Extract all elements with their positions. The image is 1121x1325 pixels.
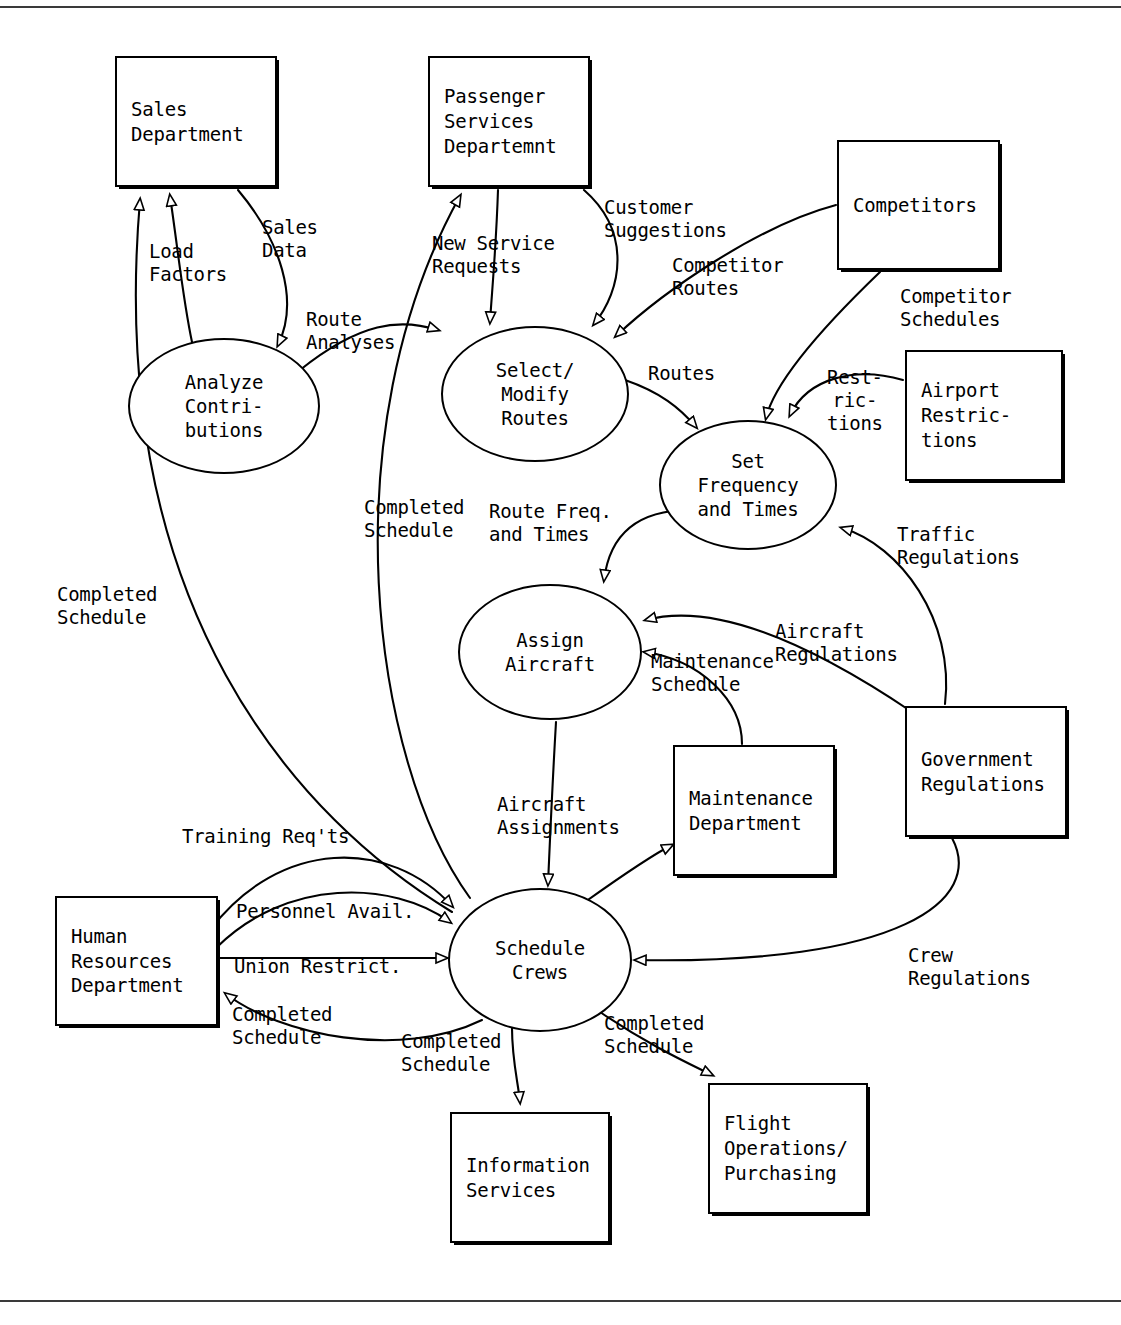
flow-label-crew-regulations: Crew Regulations	[908, 944, 1031, 990]
flow-completed-schedule-information	[512, 1028, 520, 1102]
dfd-canvas: Analyze Contri- butions Select/ Modify R…	[0, 0, 1121, 1325]
entity-information-services-label: Information Services	[452, 1153, 590, 1202]
process-select-modify-routes-label: Select/ Modify Routes	[496, 358, 575, 431]
flow-label-completed-schedule-information: Completed Schedule	[401, 1030, 501, 1076]
entity-competitors-label: Competitors	[839, 193, 977, 218]
page-rule-top	[0, 6, 1121, 8]
flow-label-load-factors: Load Factors	[149, 240, 227, 286]
process-assign-aircraft[interactable]: Assign Aircraft	[458, 584, 642, 720]
entity-sales-department[interactable]: Sales Department	[115, 56, 277, 187]
entity-competitors[interactable]: Competitors	[837, 140, 1000, 270]
flow-sales-data	[238, 190, 287, 345]
flow-label-customer-suggestions: Customer Suggestions	[604, 196, 727, 242]
entity-airport-restrictions[interactable]: Airport Restric- tions	[905, 350, 1063, 481]
entity-sales-department-label: Sales Department	[117, 97, 243, 146]
flow-routes	[625, 380, 696, 427]
flow-label-traffic-regulations: Traffic Regulations	[897, 523, 1020, 569]
entity-flight-operations-purchasing[interactable]: Flight Operations/ Purchasing	[708, 1083, 868, 1214]
process-select-modify-routes[interactable]: Select/ Modify Routes	[441, 326, 629, 462]
flow-label-training-reqts: Training Req'ts	[182, 825, 349, 848]
entity-government-regulations[interactable]: Government Regulations	[905, 706, 1067, 837]
flow-label-route-analyses: Route Analyses	[306, 308, 395, 354]
entity-human-resources-department[interactable]: Human Resources Department	[55, 896, 218, 1026]
flow-completed-schedule-maintenance	[585, 845, 672, 902]
entity-airport-restrictions-label: Airport Restric- tions	[907, 378, 1011, 452]
entity-information-services[interactable]: Information Services	[450, 1112, 610, 1243]
entity-maintenance-department-label: Maintenance Department	[675, 786, 813, 835]
flow-label-completed-schedule-hr: Completed Schedule	[232, 1003, 332, 1049]
flow-label-maintenance-schedule: Maintenance Schedule	[651, 650, 774, 696]
entity-government-regulations-label: Government Regulations	[907, 747, 1045, 796]
flow-label-new-service-requests: New Service Requests	[432, 232, 555, 278]
entity-passenger-services-department-label: Passenger Services Departemnt	[430, 84, 556, 158]
flow-label-restrictions: Rest- ric- tions	[827, 366, 883, 436]
entity-flight-operations-purchasing-label: Flight Operations/ Purchasing	[710, 1111, 848, 1185]
flow-label-aircraft-regulations: Aircraft Regulations	[775, 620, 898, 666]
entity-human-resources-department-label: Human Resources Department	[57, 924, 183, 998]
process-analyze-contributions-label: Analyze Contri- butions	[185, 370, 264, 443]
flow-label-competitor-routes: Competitor Routes	[672, 254, 783, 300]
flow-label-route-freq-and-times: Route Freq. and Times	[489, 500, 612, 546]
page-rule-bottom	[0, 1300, 1121, 1302]
flow-label-completed-schedule-flight-ops: Completed Schedule	[604, 1012, 704, 1058]
process-set-frequency-and-times-label: Set Frequency and Times	[697, 449, 798, 522]
flow-label-competitor-schedules: Competitor Schedules	[900, 285, 1011, 331]
flow-label-routes: Routes	[648, 362, 715, 385]
entity-passenger-services-department[interactable]: Passenger Services Departemnt	[428, 56, 590, 187]
process-analyze-contributions[interactable]: Analyze Contri- butions	[128, 338, 320, 474]
flow-label-completed-schedule-passenger: Completed Schedule	[364, 496, 464, 542]
flow-completed-schedule-passenger	[378, 196, 470, 898]
flow-label-union-restrict: Union Restrict.	[234, 955, 401, 978]
process-assign-aircraft-label: Assign Aircraft	[505, 628, 595, 677]
process-schedule-crews[interactable]: Schedule Crews	[448, 888, 632, 1032]
flow-label-sales-data: Sales Data	[262, 216, 318, 262]
process-schedule-crews-label: Schedule Crews	[495, 936, 585, 985]
flow-label-aircraft-assignments: Aircraft Assignments	[497, 793, 620, 839]
flow-completed-schedule-sales	[136, 200, 452, 912]
entity-maintenance-department[interactable]: Maintenance Department	[673, 745, 835, 876]
flow-label-personnel-avail: Personnel Avail.	[236, 900, 414, 923]
flow-label-completed-schedule-sales: Completed Schedule	[57, 583, 157, 629]
process-set-frequency-and-times[interactable]: Set Frequency and Times	[659, 420, 837, 550]
